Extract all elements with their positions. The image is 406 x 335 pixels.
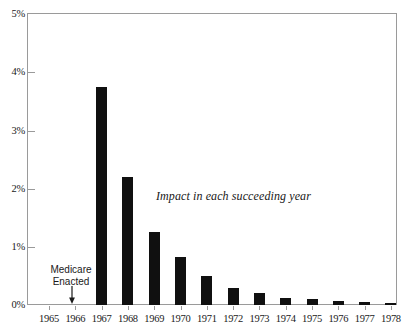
y-axis-label-3: 3% (0, 125, 27, 137)
x-tickmark-1965 (49, 306, 50, 310)
x-tickmark-1972 (233, 306, 234, 310)
x-tickmark-1977 (365, 306, 366, 310)
medicare-annotation-line1: Medicare (32, 264, 110, 276)
x-tickmark-1971 (207, 306, 208, 310)
y-axis: 5% 4% 3% 2% 1% 0% (0, 0, 27, 335)
x-axis-label-1978: 1978 (374, 312, 406, 325)
x-tickmark-1974 (286, 306, 287, 310)
impact-annotation: Impact in each succeeding year (156, 189, 311, 204)
y-tickmark-4 (28, 72, 35, 73)
x-tickmark-1976 (338, 306, 339, 310)
x-tickmark-1967 (102, 306, 103, 310)
down-arrow-icon (66, 286, 78, 304)
y-tickmark-2 (28, 189, 35, 190)
y-axis-label-5: 5% (0, 8, 27, 20)
x-axis: 1965196619671968196919701971197219731974… (0, 306, 401, 335)
x-tickmark-1978 (391, 306, 392, 310)
y-tickmark-3 (28, 131, 35, 132)
plot-area-frame (27, 13, 397, 305)
x-tickmark-1968 (128, 306, 129, 310)
x-tickmark-1973 (259, 306, 260, 310)
x-tickmark-1970 (181, 306, 182, 310)
y-tickmark-1 (28, 247, 35, 248)
y-axis-label-4: 4% (0, 66, 27, 78)
y-axis-label-1: 1% (0, 241, 27, 253)
x-tickmark-1975 (312, 306, 313, 310)
y-axis-label-2: 2% (0, 183, 27, 195)
medicare-enacted-annotation: Medicare Enacted (32, 264, 110, 287)
x-tickmark-1969 (154, 306, 155, 310)
x-tickmark-1966 (75, 306, 76, 310)
